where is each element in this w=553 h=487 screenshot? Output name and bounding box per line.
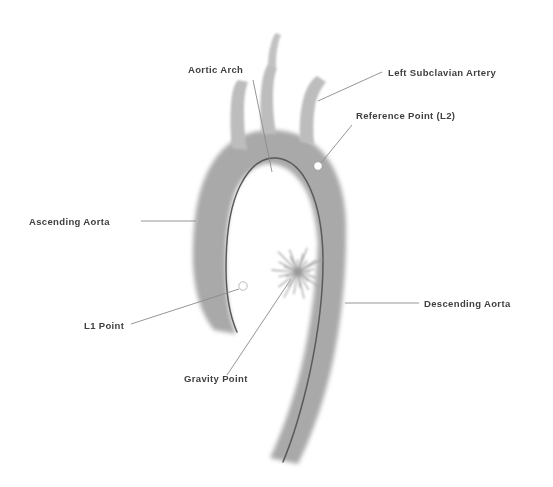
- gravity-point-hub: [295, 269, 302, 276]
- aorta-diagram-figure: Aortic ArchLeft Subclavian ArteryReferen…: [0, 0, 553, 487]
- label-descending-aorta: Descending Aorta: [424, 298, 511, 309]
- label-gravity-point: Gravity Point: [184, 373, 248, 384]
- label-aortic-arch: Aortic Arch: [188, 64, 243, 75]
- label-l1-point: L1 Point: [84, 320, 125, 331]
- label-reference-point-l2: Reference Point (L2): [356, 110, 455, 121]
- label-left-subclavian-artery: Left Subclavian Artery: [388, 67, 497, 78]
- label-ascending-aorta: Ascending Aorta: [29, 216, 110, 227]
- reference-point-l2-marker: [314, 162, 322, 170]
- l1-point-marker: [239, 282, 247, 290]
- aorta-diagram-canvas: Aortic ArchLeft Subclavian ArteryReferen…: [0, 0, 553, 487]
